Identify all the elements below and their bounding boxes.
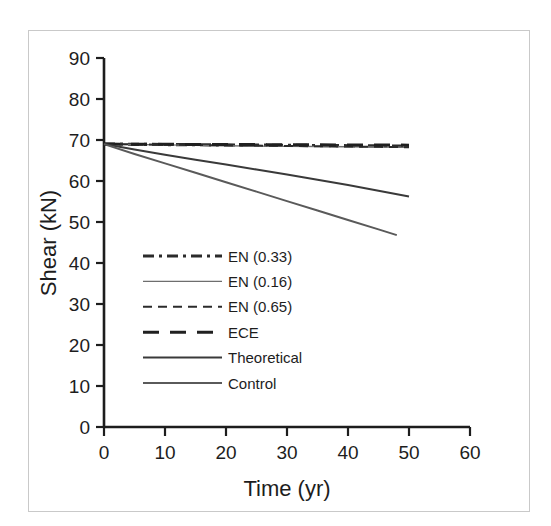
series-line [104, 144, 409, 196]
y-tick-label: 60 [69, 171, 90, 192]
x-tick-label: 10 [154, 442, 175, 463]
y-tick-label: 70 [69, 130, 90, 151]
data-series-group [104, 144, 409, 235]
x-axis-ticks [104, 427, 470, 436]
y-tick-label: 10 [69, 376, 90, 397]
x-tick-labels: 0 10 20 30 40 50 60 [99, 442, 481, 463]
x-axis-title: Time (yr) [243, 476, 330, 501]
x-tick-label: 30 [276, 442, 297, 463]
x-tick-label: 60 [459, 442, 480, 463]
x-tick-label: 0 [99, 442, 110, 463]
y-tick-label: 80 [69, 89, 90, 110]
x-tick-label: 40 [337, 442, 358, 463]
y-tick-labels: 90 80 70 60 50 40 30 20 10 0 [69, 48, 90, 438]
y-tick-label: 50 [69, 212, 90, 233]
x-tick-label: 50 [398, 442, 419, 463]
y-axis-title: Shear (kN) [36, 190, 61, 296]
series-line [104, 144, 397, 235]
legend-label: Control [228, 375, 276, 392]
legend-label: EN (0.33) [228, 248, 292, 265]
legend-label: EN (0.16) [228, 273, 292, 290]
legend-label: ECE [228, 324, 259, 341]
y-tick-label: 40 [69, 253, 90, 274]
y-tick-label: 20 [69, 335, 90, 356]
y-tick-label: 0 [79, 417, 90, 438]
y-tick-label: 30 [69, 294, 90, 315]
x-tick-label: 20 [215, 442, 236, 463]
shear-vs-time-chart: 90 80 70 60 50 40 30 20 10 0 0 10 20 30 … [0, 0, 551, 526]
chart-legend: EN (0.33)EN (0.16)EN (0.65)ECETheoretica… [143, 248, 302, 392]
y-tick-label: 90 [69, 48, 90, 69]
legend-label: EN (0.65) [228, 298, 292, 315]
legend-label: Theoretical [228, 349, 302, 366]
